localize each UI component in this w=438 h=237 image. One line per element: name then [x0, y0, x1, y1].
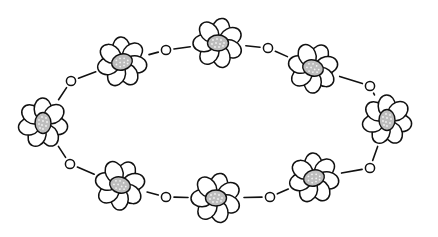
center-speckle — [216, 201, 218, 203]
center-speckle — [382, 120, 384, 122]
center-speckle — [210, 194, 212, 196]
daisy-flower-bottom — [191, 172, 242, 225]
bead — [65, 159, 74, 168]
center-speckle — [218, 46, 220, 48]
string-segment — [374, 93, 375, 95]
center-speckle — [213, 197, 215, 199]
bead — [365, 81, 374, 90]
center-speckle — [389, 114, 391, 116]
string-segment — [277, 189, 288, 194]
center-speckle — [385, 113, 387, 115]
flower-center — [379, 110, 395, 131]
string-segment — [174, 47, 190, 49]
center-speckle — [42, 120, 44, 122]
string-segment — [373, 146, 378, 160]
daisy-flower-top — [193, 17, 244, 70]
center-speckle — [383, 124, 385, 126]
daisy-flower-upper-left — [91, 30, 154, 94]
bead — [161, 45, 170, 54]
center-speckle — [46, 121, 48, 123]
flower-group — [17, 17, 414, 225]
daisy-flower-left — [17, 98, 70, 149]
center-speckle — [382, 116, 384, 118]
center-speckle — [218, 194, 220, 196]
flower-center — [206, 190, 227, 206]
string-segment — [275, 51, 287, 56]
string-segment — [58, 146, 65, 157]
string-segment — [149, 52, 158, 55]
center-speckle — [217, 198, 219, 200]
flower-center — [208, 35, 229, 51]
center-speckle — [39, 127, 41, 129]
string-segment — [78, 72, 95, 78]
center-speckle — [220, 200, 222, 202]
center-speckle — [38, 123, 40, 125]
center-speckle — [223, 42, 225, 44]
center-speckle — [390, 118, 392, 120]
center-speckle — [42, 128, 44, 130]
center-speckle — [219, 43, 221, 45]
center-speckle — [212, 201, 214, 203]
flower-chain-canvas — [0, 0, 438, 237]
string-segment — [246, 46, 260, 47]
center-speckle — [41, 124, 43, 126]
center-speckle — [222, 45, 224, 47]
center-speckle — [212, 39, 214, 41]
center-speckle — [216, 38, 218, 40]
center-speckle — [385, 121, 387, 123]
center-speckle — [215, 42, 217, 44]
string-segment — [147, 192, 158, 195]
string-segment — [342, 169, 363, 173]
daisy-flower-upper-right — [282, 36, 345, 100]
daisy-flower-lower-left — [89, 153, 152, 217]
center-speckle — [214, 193, 216, 195]
string-segment — [77, 167, 94, 174]
center-speckle — [220, 39, 222, 41]
center-speckle — [386, 117, 388, 119]
center-speckle — [221, 197, 223, 199]
bead — [263, 43, 272, 52]
center-speckle — [389, 122, 391, 124]
flower-chain-illustration — [0, 0, 438, 237]
daisy-flower-lower-right — [283, 146, 346, 210]
bead — [365, 163, 374, 172]
center-speckle — [45, 117, 47, 119]
center-speckle — [41, 116, 43, 118]
bead — [161, 192, 170, 201]
string-segment — [340, 76, 363, 83]
daisy-flower-right — [361, 95, 414, 146]
center-speckle — [38, 119, 40, 121]
center-speckle — [45, 125, 47, 127]
center-speckle — [209, 198, 211, 200]
bead — [265, 192, 274, 201]
center-speckle — [386, 125, 388, 127]
center-speckle — [211, 43, 213, 45]
string-segment — [59, 88, 67, 100]
flower-center — [35, 113, 51, 134]
bead — [66, 76, 75, 85]
center-speckle — [214, 46, 216, 48]
